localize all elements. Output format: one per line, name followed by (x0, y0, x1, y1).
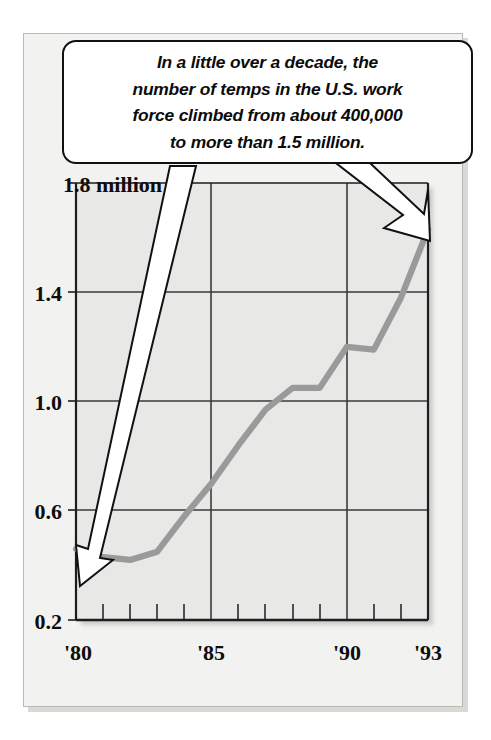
y-axis-label-0.2: 0.2 (14, 609, 62, 635)
chart-figure: In a little over a decade, thenumber of … (0, 0, 491, 740)
y-axis-ticks (68, 183, 76, 620)
y-axis-label-1.4: 1.4 (14, 281, 62, 307)
x-axis-label-1985: '85 (189, 640, 233, 666)
callout-line-3: to more than 1.5 million. (74, 129, 461, 156)
callout-line-2: force climbed from about 400,000 (74, 102, 461, 129)
y-axis-label-1.8: 1.8 million (14, 172, 162, 198)
x-axis-label-1993: '93 (406, 640, 450, 666)
y-axis-label-1.0: 1.0 (14, 390, 62, 416)
callout-text: In a little over a decade, thenumber of … (74, 49, 461, 155)
x-axis-label-1990: '90 (325, 640, 369, 666)
callout-line-1: number of temps in the U.S. work (74, 76, 461, 103)
y-axis-label-0.6: 0.6 (14, 499, 62, 525)
callout-bubble: In a little over a decade, thenumber of … (62, 40, 475, 168)
x-axis-label-1980: '80 (56, 640, 100, 666)
callout-line-0: In a little over a decade, the (74, 49, 461, 76)
